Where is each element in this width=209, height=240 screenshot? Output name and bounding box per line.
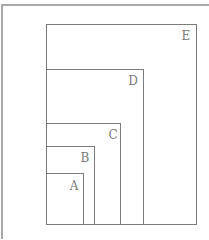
label-d: D bbox=[128, 75, 138, 87]
label-e: E bbox=[182, 30, 191, 42]
label-a: A bbox=[70, 180, 79, 192]
label-b: B bbox=[81, 152, 90, 164]
label-c: C bbox=[108, 129, 117, 141]
